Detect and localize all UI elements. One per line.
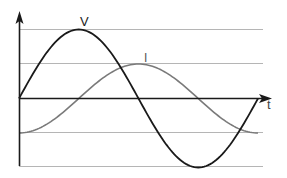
time-axis-label: t bbox=[267, 97, 271, 112]
current-label: I bbox=[144, 51, 147, 65]
voltage-label: V bbox=[80, 14, 89, 29]
ac-phase-diagram: V I t bbox=[0, 0, 287, 178]
